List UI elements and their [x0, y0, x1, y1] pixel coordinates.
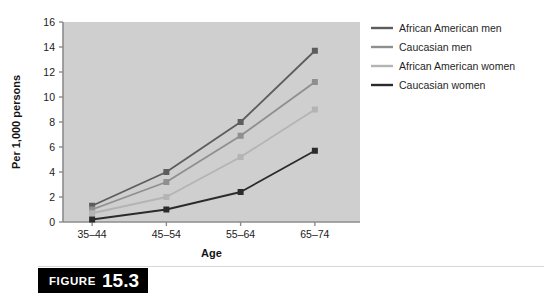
y-axis-tick-label: 14	[43, 41, 55, 53]
legend-label: Caucasian women	[399, 79, 486, 91]
y-axis-tick-label: 0	[49, 216, 55, 228]
data-point-marker	[89, 217, 95, 223]
data-point-marker	[238, 119, 244, 125]
y-axis-tick-label: 4	[49, 166, 55, 178]
figure-caption-word: FIGURE	[49, 275, 96, 287]
data-point-marker	[312, 107, 318, 113]
y-axis-tick-label: 2	[49, 191, 55, 203]
legend-label: African American men	[399, 22, 502, 34]
x-axis-tick-label: 45–54	[152, 228, 181, 240]
data-point-marker	[312, 148, 318, 154]
data-point-marker	[238, 154, 244, 160]
y-axis-tick-label: 6	[49, 141, 55, 153]
x-axis: 35–4445–5455–6465–74	[63, 222, 360, 240]
x-axis-tick-label: 65–74	[300, 228, 329, 240]
data-point-marker	[163, 207, 169, 213]
y-axis-tick-label: 8	[49, 116, 55, 128]
y-axis: 0246810121416	[43, 16, 63, 228]
figure-caption-number: 15.3	[102, 271, 139, 290]
y-axis-tick-label: 10	[43, 91, 55, 103]
x-axis-tick-label: 35–44	[78, 228, 107, 240]
chart-legend: African American menCaucasian menAfrican…	[371, 22, 515, 91]
data-point-marker	[238, 189, 244, 195]
data-point-marker	[89, 210, 95, 216]
caption-divider	[38, 266, 544, 267]
line-chart: 0246810121416 35–4445–5455–6465–74 Afric…	[0, 0, 544, 266]
figure-container: 0246810121416 35–4445–5455–6465–74 Afric…	[0, 0, 544, 299]
figure-caption: FIGURE 15.3	[38, 268, 148, 293]
y-axis-tick-label: 16	[43, 16, 55, 28]
data-point-marker	[163, 179, 169, 185]
data-point-marker	[163, 169, 169, 175]
data-point-marker	[312, 79, 318, 85]
data-point-marker	[312, 48, 318, 54]
y-axis-tick-label: 12	[43, 66, 55, 78]
data-point-marker	[238, 133, 244, 139]
legend-label: Caucasian men	[399, 41, 472, 53]
data-point-marker	[163, 194, 169, 200]
x-axis-title: Age	[201, 247, 222, 259]
y-axis-title: Per 1,000 persons	[10, 75, 22, 169]
legend-label: African American women	[399, 60, 515, 72]
x-axis-tick-label: 55–64	[226, 228, 255, 240]
